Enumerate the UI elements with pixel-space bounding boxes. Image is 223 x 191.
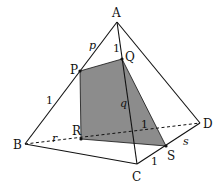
tetrahedron-diagram: A B C D P Q R S p q r s 1 1 1 1	[0, 0, 223, 191]
label-one-RD: 1	[141, 118, 148, 131]
label-one-CS: 1	[151, 155, 158, 168]
label-P: P	[70, 63, 78, 77]
point-P	[78, 69, 81, 72]
label-D: D	[203, 117, 213, 131]
edge-BC	[25, 144, 137, 164]
label-C: C	[132, 170, 141, 184]
label-R: R	[72, 124, 82, 138]
label-r: r	[52, 132, 58, 145]
label-one-PB: 1	[46, 94, 53, 107]
label-S: S	[167, 149, 175, 163]
label-one-AQ: 1	[113, 42, 120, 55]
point-S	[164, 144, 167, 147]
label-A: A	[111, 6, 121, 20]
label-B: B	[13, 138, 22, 152]
label-s: s	[183, 135, 189, 148]
label-p: p	[89, 39, 96, 52]
label-q: q	[120, 97, 127, 110]
point-Q	[120, 57, 123, 60]
label-Q: Q	[125, 50, 135, 64]
